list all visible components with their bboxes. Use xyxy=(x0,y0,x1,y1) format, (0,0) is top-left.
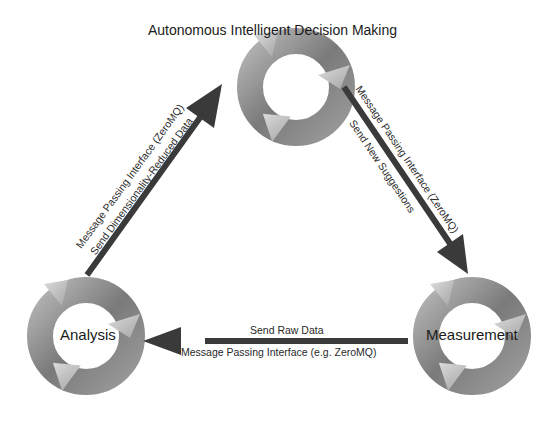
arrow-analysis-to-decision xyxy=(87,84,222,275)
edge-label-measurement-analysis-top: Send Raw Data xyxy=(250,324,324,336)
diagram-canvas xyxy=(0,0,554,425)
node-label-decision: Autonomous Intelligent Decision Making xyxy=(148,22,397,38)
node-label-measurement: Measurement xyxy=(426,326,518,343)
edge-label-measurement-analysis-bottom: Message Passing Interface (e.g. ZeroMQ) xyxy=(181,346,377,358)
arrow-decision-to-measurement xyxy=(344,87,468,274)
decision-cycle-icon xyxy=(250,31,350,144)
node-label-analysis: Analysis xyxy=(60,326,116,343)
